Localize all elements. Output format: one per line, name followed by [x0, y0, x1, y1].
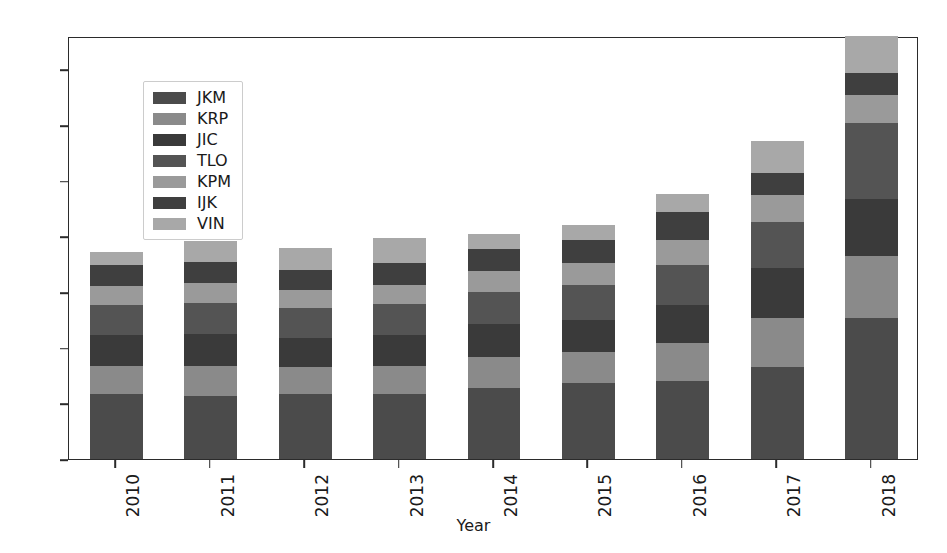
bar-segment-ijk [751, 173, 804, 195]
stacked-bar [90, 36, 143, 459]
x-tick-label: 2018 [879, 474, 899, 517]
chart-legend: JKMKRPJICTLOKPMIJKVIN [143, 81, 243, 240]
bar-segment-tlo [656, 265, 709, 305]
bar-segment-tlo [751, 222, 804, 268]
x-tick-label: 2011 [218, 474, 238, 517]
bar-segment-jkm [656, 381, 709, 459]
bar-segment-ijk [90, 265, 143, 286]
x-tick-label: 2017 [784, 474, 804, 517]
bar-segment-jkm [751, 367, 804, 459]
x-tick-label: 2016 [690, 474, 710, 517]
bar-segment-vin [562, 225, 615, 239]
x-tick-mark [681, 460, 683, 468]
x-tick-mark [114, 460, 116, 468]
legend-label: TLO [197, 152, 228, 169]
x-tick-label: 2014 [501, 474, 521, 517]
legend-item-ijk: IJK [153, 194, 231, 211]
legend-item-vin: VIN [153, 215, 231, 232]
bar-segment-jkm [845, 318, 898, 459]
bar-segment-kpm [184, 283, 237, 303]
x-tick-mark [398, 460, 400, 468]
bar-segment-jic [845, 199, 898, 257]
bar-segment-ijk [656, 212, 709, 240]
y-tick-mark [60, 404, 68, 406]
bar-segment-vin [279, 248, 332, 270]
bar-segment-kpm [90, 286, 143, 305]
x-tick-mark [303, 460, 305, 468]
bar-segment-ijk [373, 263, 426, 285]
legend-swatch-kpm [153, 176, 186, 188]
stacked-bar [279, 36, 332, 459]
legend-swatch-jkm [153, 92, 186, 104]
bar-segment-tlo [562, 285, 615, 320]
bar-segment-jkm [468, 388, 521, 459]
stacked-bar [656, 36, 709, 459]
x-axis-title: Year [0, 516, 947, 535]
legend-label: KRP [197, 110, 228, 127]
y-tick-mark [60, 459, 68, 461]
bar-segment-jkm [279, 394, 332, 459]
bar-segment-kpm [751, 195, 804, 222]
x-tick-mark [776, 460, 778, 468]
legend-item-tlo: TLO [153, 152, 231, 169]
y-tick-mark [60, 125, 68, 127]
bar-segment-tlo [373, 304, 426, 335]
bar-segment-kpm [562, 263, 615, 285]
bar-segment-kpm [845, 95, 898, 123]
bar-segment-jkm [184, 396, 237, 459]
x-tick-label: 2012 [312, 474, 332, 517]
bar-segment-kpm [656, 240, 709, 266]
stacked-bar [562, 36, 615, 459]
bar-segment-vin [845, 36, 898, 73]
legend-label: JIC [197, 131, 218, 148]
x-tick-mark [492, 460, 494, 468]
bar-segment-jic [656, 305, 709, 343]
legend-label: JKM [197, 89, 226, 106]
bar-segment-jic [184, 334, 237, 365]
legend-item-jkm: JKM [153, 89, 231, 106]
bar-segment-jic [279, 338, 332, 367]
y-tick-mark [60, 237, 68, 239]
legend-item-kpm: KPM [153, 173, 231, 190]
bar-segment-krp [90, 366, 143, 395]
bar-segment-jic [468, 324, 521, 356]
plot-area: JKMKRPJICTLOKPMIJKVIN [68, 37, 918, 460]
y-tick-mark [60, 181, 68, 183]
bar-segment-krp [751, 318, 804, 367]
bar-segment-vin [468, 234, 521, 248]
legend-swatch-jic [153, 134, 186, 146]
bar-segment-tlo [845, 123, 898, 199]
x-tick-mark [587, 460, 589, 468]
bar-segment-krp [279, 367, 332, 395]
stacked-bar [751, 36, 804, 459]
stacked-bar [468, 36, 521, 459]
bar-segment-vin [751, 141, 804, 173]
figure-canvas: 050100150200250300350 JKMKRPJICTLOKPMIJK… [0, 0, 947, 553]
bar-segment-krp [562, 352, 615, 383]
y-tick-mark [60, 292, 68, 294]
bar-segment-krp [468, 357, 521, 388]
bar-segment-jkm [562, 383, 615, 459]
stacked-bar [373, 36, 426, 459]
legend-swatch-vin [153, 218, 186, 230]
bar-segment-tlo [279, 308, 332, 338]
stacked-bar [845, 36, 898, 459]
bar-segment-kpm [279, 290, 332, 308]
bar-segment-jkm [373, 394, 426, 459]
x-tick-mark [870, 460, 872, 468]
bar-segment-jic [751, 268, 804, 318]
legend-item-krp: KRP [153, 110, 231, 127]
bar-segment-ijk [184, 262, 237, 283]
legend-label: VIN [197, 215, 225, 232]
bar-segment-krp [373, 366, 426, 395]
bar-segment-krp [656, 343, 709, 381]
bar-segment-vin [373, 238, 426, 264]
bar-segment-jkm [90, 394, 143, 459]
bar-segment-tlo [184, 303, 237, 334]
bar-segment-kpm [373, 285, 426, 304]
bar-segment-krp [184, 366, 237, 396]
bar-segment-jic [373, 335, 426, 365]
legend-swatch-krp [153, 113, 186, 125]
bar-segment-krp [845, 256, 898, 317]
x-tick-label: 2010 [123, 474, 143, 517]
